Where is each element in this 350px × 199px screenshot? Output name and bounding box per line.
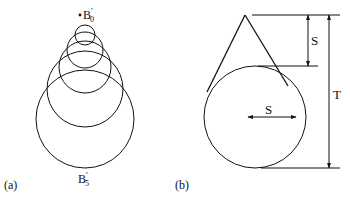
- label-b5: B′5: [78, 170, 89, 188]
- panel-a: [36, 25, 134, 168]
- panel-b-label: (b): [175, 178, 189, 192]
- t-label: T: [333, 87, 341, 102]
- circle-b1: [67, 32, 103, 68]
- circle-b5: [36, 70, 134, 168]
- cone-right-edge: [245, 15, 288, 86]
- cone-left-edge: [207, 15, 245, 92]
- circle-b3: [47, 51, 123, 127]
- diagram-canvas: B′0 B′5 (a) S T S (b): [0, 0, 350, 199]
- point-b0-dot: [79, 14, 82, 17]
- s-vertical-label: S: [311, 33, 318, 48]
- label-b0: B′0: [83, 6, 94, 24]
- circle-b2: [59, 41, 111, 93]
- panel-a-label: (a): [4, 178, 17, 192]
- s-horizontal-label: S: [265, 102, 272, 117]
- panel-b: [204, 15, 340, 168]
